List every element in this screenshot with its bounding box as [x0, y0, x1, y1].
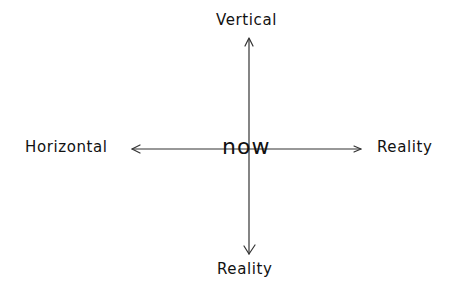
axis-label-right: Reality	[377, 140, 432, 155]
center-label: now	[222, 136, 270, 158]
diagram-canvas: Vertical Horizontal Reality Reality now	[0, 0, 460, 299]
axis-label-bottom: Reality	[217, 262, 272, 277]
axis-label-top: Vertical	[216, 13, 277, 28]
axis-label-left: Horizontal	[25, 140, 108, 155]
